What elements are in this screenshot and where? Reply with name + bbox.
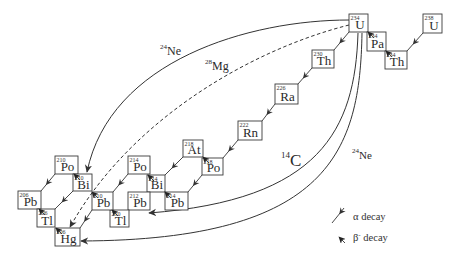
nuclide-po-210: 210 Po — [55, 156, 78, 174]
cluster-symbol: C — [290, 151, 301, 170]
alpha-arrow — [262, 104, 275, 121]
element-symbol: Ra — [280, 89, 295, 104]
legend-alpha-label: α decay — [353, 211, 386, 222]
element-symbol: At — [188, 142, 201, 157]
cluster-label-c14: 14C — [281, 150, 301, 170]
nuclide-bi-210: 210 Bi — [73, 174, 92, 192]
element-symbol: U — [355, 17, 365, 32]
element-symbol: Pb — [97, 195, 111, 210]
element-symbol: Pa — [371, 36, 384, 51]
legend: α decay β- decay — [332, 208, 389, 243]
nuclide-u-238: 238 U — [423, 14, 442, 33]
ne24-upper-arc — [87, 20, 349, 172]
element-symbol: Po — [61, 159, 75, 174]
alpha-arrow-icon — [332, 208, 344, 223]
nuclide-rn-222: 222 Rn — [238, 121, 262, 140]
nuclide-tl-206: 206 Tl — [37, 209, 55, 228]
beta-arrow-icon — [339, 237, 345, 243]
cluster-symbol: Mg — [212, 59, 229, 73]
alpha-arrow — [223, 140, 238, 158]
element-symbol: Pb — [133, 195, 147, 210]
cluster-symbol: Ne — [359, 149, 372, 161]
cluster-symbol: Ne — [167, 44, 181, 58]
alpha-arrow — [80, 210, 92, 228]
element-symbol: U — [429, 18, 439, 33]
alpha-arrow — [55, 191, 73, 209]
alpha-arrow — [41, 174, 55, 191]
nuclide-pa-234: 234 Pa — [367, 32, 386, 51]
alpha-arrow — [407, 33, 423, 51]
alpha-arrow — [188, 175, 202, 192]
cluster-label-mg28: 28Mg — [205, 58, 229, 73]
cluster-label-ne24-lower: 24Ne — [352, 147, 372, 161]
element-symbol: Po — [133, 159, 147, 174]
nuclide-po-214: 214 Po — [128, 156, 150, 174]
nuclide-tl-210: 210 Tl — [110, 210, 129, 228]
beta-decay-text: decay — [361, 232, 389, 243]
nuclide-bi-214: 214 Bi — [147, 175, 165, 192]
nuclide-po-218: 218 Po — [202, 158, 223, 175]
legend-beta-label: β- decay — [353, 231, 389, 243]
element-symbol: Th — [317, 53, 332, 68]
alpha-arrow — [298, 68, 312, 84]
element-symbol: Tl — [41, 213, 53, 228]
nuclide-u-234: 234 U — [349, 14, 368, 32]
nuclide-ra-226: 226 Ra — [275, 84, 298, 104]
decay-chain-diagram: 234 U 234 Pa 234 Th 238 U 230 Th 226 Ra … — [0, 0, 461, 264]
element-symbol: Rn — [243, 125, 259, 140]
legend-alpha: α decay — [332, 208, 386, 223]
alpha-arrow — [165, 157, 183, 175]
nuclide-th-230: 230 Th — [312, 50, 334, 68]
alpha-arrow — [113, 174, 128, 192]
element-symbol: Pb — [171, 195, 185, 210]
element-symbol: Th — [390, 54, 405, 69]
legend-beta: β- decay — [339, 231, 389, 243]
nuclide-pb-212: 212 Pb — [128, 192, 150, 210]
nuclide-pb-206: 206 Pb — [18, 191, 41, 209]
nuclide-pb-214: 214 Pb — [165, 192, 188, 210]
alpha-arrow — [334, 32, 349, 50]
element-symbol: Pb — [24, 194, 38, 209]
element-symbol: Hg — [61, 231, 77, 246]
nuclide-at-218: 218 At — [183, 140, 203, 157]
cluster-label-ne24-upper: 24Ne — [160, 43, 181, 58]
